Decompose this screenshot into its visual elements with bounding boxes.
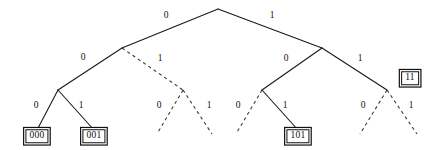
edge-01-011-label: 1 [207,101,212,111]
edge-0-01-label: 1 [158,54,163,64]
edge-00-000 [37,90,58,130]
edge-10-100 [236,90,262,134]
edge-01-010-label: 0 [157,101,162,111]
edge-11-111 [387,90,417,134]
edge-1-10-label: 0 [284,54,289,64]
edge-10-101-label: 1 [283,101,288,111]
codeword-11-text: 11 [404,73,416,83]
edge-0-00-label: 0 [81,53,86,63]
codeword-101-box: 101 [286,129,309,143]
edge-11-110 [360,90,387,134]
edge-1-10 [262,48,322,90]
edge-00-001-label: 1 [79,101,84,111]
edge-11-111-label: 1 [409,101,414,111]
edge-root-1-label: 1 [270,11,275,21]
tree-edges-layer [37,9,417,134]
codeword-000-box: 000 [25,129,48,143]
edge-01-011 [183,90,212,134]
edge-1-11 [322,48,387,90]
codeword-001-text: 001 [85,131,102,141]
edge-10-100-label: 0 [236,101,241,111]
edge-00-000-label: 0 [34,101,39,111]
edge-0-01 [122,48,183,90]
edge-10-101 [262,90,298,130]
edge-0-00 [58,48,122,90]
edge-01-010 [157,90,183,134]
edge-00-001 [58,90,94,130]
edge-11-110-label: 0 [361,101,366,111]
codeword-101-text: 101 [289,131,306,141]
codeword-001-box: 001 [82,129,105,143]
code-tree-figure: 01010101010101 00000110111 [0,0,428,150]
edge-root-0 [122,9,218,48]
codeword-000-text: 000 [28,131,45,141]
edge-root-0-label: 0 [164,11,169,21]
edge-1-11-label: 1 [358,54,363,64]
codeword-11-box: 11 [401,71,419,85]
tree-diagram-canvas [0,0,428,150]
